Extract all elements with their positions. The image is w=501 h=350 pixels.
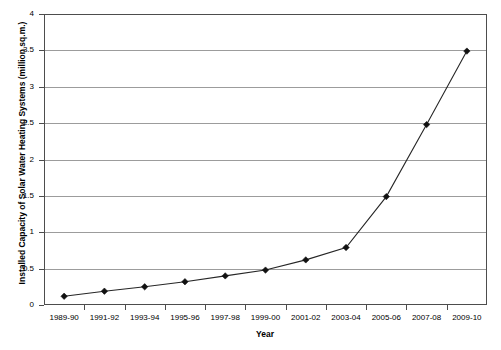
x-tick-mark: [406, 305, 407, 310]
plot-area: [44, 14, 487, 305]
gridline: [45, 269, 486, 270]
x-tick-mark: [84, 305, 85, 310]
x-tick-mark: [245, 305, 246, 310]
x-axis-title: Year: [235, 329, 295, 339]
y-axis-title: Installed Capacity of Solar Water Heatin…: [17, 3, 27, 303]
y-tick-mark: [39, 269, 44, 270]
x-tick-mark: [447, 305, 448, 310]
line-chart: 00.511.522.533.54 Installed Capacity of …: [0, 0, 501, 350]
y-tick-mark: [39, 14, 44, 15]
y-tick-mark: [39, 50, 44, 51]
x-tick-label: 2009-10: [437, 313, 497, 322]
gridline: [45, 50, 486, 51]
y-tick-mark: [39, 305, 44, 306]
y-tick-mark: [39, 123, 44, 124]
gridline: [45, 160, 486, 161]
y-tick-mark: [39, 87, 44, 88]
gridline: [45, 232, 486, 233]
x-tick-mark: [205, 305, 206, 310]
x-tick-mark: [165, 305, 166, 310]
y-tick-mark: [39, 196, 44, 197]
x-tick-mark: [326, 305, 327, 310]
gridline: [45, 196, 486, 197]
gridline: [45, 87, 486, 88]
x-tick-mark: [125, 305, 126, 310]
y-tick-mark: [39, 232, 44, 233]
x-tick-mark: [366, 305, 367, 310]
gridline: [45, 123, 486, 124]
x-tick-mark: [286, 305, 287, 310]
y-tick-mark: [39, 160, 44, 161]
